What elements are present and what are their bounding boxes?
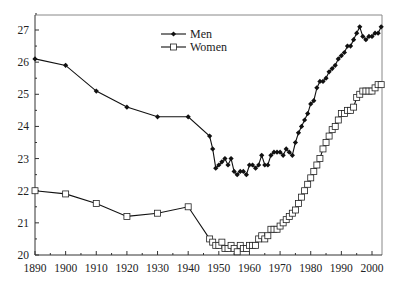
diamond-marker-icon <box>171 31 176 36</box>
square-marker-icon <box>234 249 240 255</box>
series-layer <box>32 24 384 255</box>
series-line-women <box>35 85 381 252</box>
diamond-marker-icon <box>357 24 362 29</box>
square-marker-icon <box>63 191 69 197</box>
x-tick-label: 1900 <box>54 262 77 274</box>
square-marker-icon <box>155 210 161 216</box>
square-marker-icon <box>378 82 384 88</box>
square-marker-icon <box>253 242 259 248</box>
square-marker-icon <box>326 133 332 139</box>
diamond-marker-icon <box>265 162 270 167</box>
legend: MenWomen <box>161 27 227 54</box>
y-tick-label: 24 <box>18 120 30 132</box>
square-marker-icon <box>124 213 130 219</box>
square-marker-icon <box>311 168 317 174</box>
diamond-marker-icon <box>305 111 310 116</box>
diamond-marker-icon <box>379 24 384 29</box>
square-marker-icon <box>308 175 314 181</box>
x-axis-ticks: 1890190019101920193019401950196019701980… <box>24 251 384 274</box>
y-tick-label: 26 <box>18 56 30 68</box>
series-women <box>32 82 384 255</box>
square-marker-icon <box>299 194 305 200</box>
y-axis-ticks: 2021222324252627 <box>18 14 40 261</box>
x-tick-label: 1920 <box>115 262 138 274</box>
y-tick-label: 21 <box>18 217 30 229</box>
square-marker-icon <box>32 188 38 194</box>
x-tick-label: 1950 <box>207 262 230 274</box>
legend-label: Men <box>190 27 212 41</box>
x-tick-label: 1930 <box>146 262 169 274</box>
square-marker-icon <box>265 233 271 239</box>
square-marker-icon <box>317 156 323 162</box>
diamond-marker-icon <box>299 124 304 129</box>
diamond-marker-icon <box>314 85 319 90</box>
y-tick-label: 20 <box>18 249 30 261</box>
diamond-marker-icon <box>293 140 298 145</box>
diamond-marker-icon <box>124 105 129 110</box>
square-marker-icon <box>185 204 191 210</box>
diamond-marker-icon <box>296 130 301 135</box>
square-marker-icon <box>171 44 177 50</box>
square-marker-icon <box>302 188 308 194</box>
y-tick-label: 27 <box>18 24 30 36</box>
diamond-marker-icon <box>376 31 381 36</box>
diamond-marker-icon <box>302 117 307 122</box>
legend-label: Women <box>190 40 227 54</box>
diamond-marker-icon <box>351 37 356 42</box>
y-tick-label: 22 <box>18 185 30 197</box>
x-tick-label: 1960 <box>238 262 261 274</box>
diamond-marker-icon <box>32 56 37 61</box>
square-marker-icon <box>332 123 338 129</box>
square-marker-icon <box>292 207 298 213</box>
x-tick-label: 2000 <box>361 262 384 274</box>
square-marker-icon <box>305 181 311 187</box>
diamond-marker-icon <box>155 114 160 119</box>
x-tick-label: 1910 <box>85 262 108 274</box>
line-chart: 1890190019101920193019401950196019701980… <box>0 0 397 285</box>
square-marker-icon <box>93 201 99 207</box>
square-marker-icon <box>314 162 320 168</box>
x-tick-label: 1890 <box>24 262 47 274</box>
diamond-marker-icon <box>228 156 233 161</box>
square-marker-icon <box>295 201 301 207</box>
x-tick-label: 1940 <box>177 262 200 274</box>
diamond-marker-icon <box>348 43 353 48</box>
legend-item-women: Women <box>161 40 227 54</box>
y-tick-label: 25 <box>18 88 30 100</box>
x-tick-label: 1970 <box>269 262 292 274</box>
diamond-marker-icon <box>259 153 264 158</box>
square-marker-icon <box>323 140 329 146</box>
square-marker-icon <box>219 239 225 245</box>
y-tick-label: 23 <box>18 153 30 165</box>
diamond-marker-icon <box>354 31 359 36</box>
square-marker-icon <box>335 117 341 123</box>
x-tick-label: 1980 <box>299 262 322 274</box>
diamond-marker-icon <box>210 146 215 151</box>
legend-item-men: Men <box>161 27 212 41</box>
x-tick-label: 1990 <box>330 262 353 274</box>
diamond-marker-icon <box>225 162 230 167</box>
square-marker-icon <box>320 146 326 152</box>
square-marker-icon <box>351 104 357 110</box>
